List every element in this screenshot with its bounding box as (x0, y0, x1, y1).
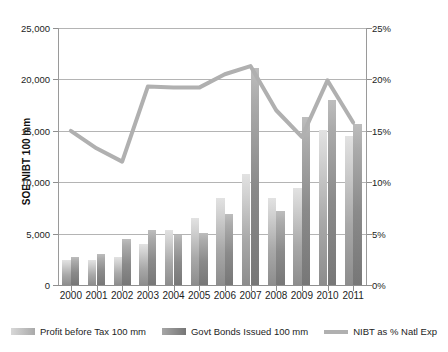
x-axis-label-2000: 2000 (60, 290, 82, 301)
y-axis-left-label: 25,000 (4, 23, 50, 34)
legend-label: NIBT as % Natl Exp (353, 326, 437, 337)
x-axis-label-2003: 2003 (137, 290, 159, 301)
chart-legend: Profit before Tax 100 mmGovt Bonds Issue… (0, 326, 448, 337)
line-series-nibt-pct (58, 28, 366, 285)
chart-container: SOE NIBT 100 mm SOE NIBT as % of Budgeta… (0, 0, 448, 352)
x-axis-line (58, 285, 367, 286)
y-axis-right-label: 10% (372, 177, 391, 188)
y-axis-right-label: 20% (372, 74, 391, 85)
y-axis-left-label: 10,000 (4, 177, 50, 188)
nibt-percent-line (71, 66, 353, 162)
y-axis-left-label: 20,000 (4, 74, 50, 85)
legend-item-2[interactable]: Govt Bonds Issued 100 mm (162, 326, 308, 337)
x-axis-label-2005: 2005 (188, 290, 210, 301)
legend-label: Profit before Tax 100 mm (40, 326, 146, 337)
x-axis-label-2001: 2001 (85, 290, 107, 301)
y-axis-left-label: 5,000 (4, 228, 50, 239)
x-axis-label-2010: 2010 (316, 290, 338, 301)
x-axis-label-2011: 2011 (342, 290, 364, 301)
x-axis-label-2008: 2008 (265, 290, 287, 301)
y-axis-right-label: 5% (372, 228, 386, 239)
legend-swatch-icon (11, 328, 35, 335)
x-axis-label-2007: 2007 (239, 290, 261, 301)
y-axis-right-label: 25% (372, 23, 391, 34)
legend-swatch-icon (324, 330, 348, 334)
y-axis-left-title: SOE NIBT 100 mm (21, 82, 32, 242)
x-axis-label-2009: 2009 (291, 290, 313, 301)
y-axis-left-label: 15,000 (4, 125, 50, 136)
x-axis-label-2002: 2002 (111, 290, 133, 301)
y-axis-right-label: 15% (372, 125, 391, 136)
y-axis-right-line (366, 28, 367, 286)
y-axis-right-label: 0% (372, 280, 386, 291)
x-axis-label-2006: 2006 (214, 290, 236, 301)
legend-item-3[interactable]: NIBT as % Natl Exp (324, 326, 437, 337)
legend-swatch-icon (162, 328, 186, 335)
legend-label: Govt Bonds Issued 100 mm (191, 326, 308, 337)
x-axis-label-2004: 2004 (162, 290, 184, 301)
y-axis-left-label: 0 (4, 280, 50, 291)
legend-item-1[interactable]: Profit before Tax 100 mm (11, 326, 146, 337)
